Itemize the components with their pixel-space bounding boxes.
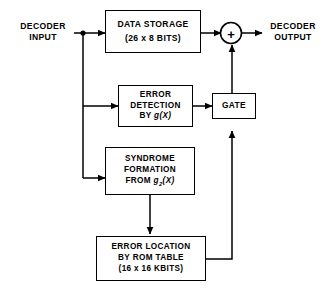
error-detection-line2: DETECTION [130, 101, 180, 112]
input-junction-dot [80, 30, 85, 35]
decoder-input-label: DECODER INPUT [12, 21, 74, 43]
decoder-block-diagram: DECODER INPUT DECODER OUTPUT + DATA STOR… [0, 0, 325, 295]
syndrome-line2: FORMATION [124, 165, 176, 176]
error-detection-line3: BY g(X) [140, 111, 172, 122]
error-detection-block[interactable]: ERROR DETECTION BY g(X) [118, 85, 193, 127]
syndrome-from-text: FROM [125, 176, 153, 185]
generator-poly-arg: (X) [159, 111, 171, 120]
data-storage-block[interactable]: DATA STORAGE (26 x 8 BITS) [105, 10, 201, 53]
error-location-rom-block[interactable]: ERROR LOCATION BY ROM TABLE (16 x 16 KBI… [96, 236, 206, 281]
syndrome-line1: SYNDROME [125, 154, 175, 165]
gate-block[interactable]: GATE [212, 93, 256, 119]
gate-label: GATE [222, 100, 246, 111]
syndrome-line3: FROM g2(X) [125, 176, 174, 188]
decoder-output-label-line2: OUTPUT [264, 32, 322, 43]
adder-plus-icon: + [221, 24, 241, 44]
rom-line3: (16 x 16 KBITS) [119, 264, 184, 275]
data-storage-line2: (26 x 8 BITS) [125, 33, 181, 44]
rom-line2: BY ROM TABLE [118, 253, 184, 264]
error-detection-line1: ERROR [140, 90, 171, 101]
wire-rom-to-gate [206, 131, 232, 259]
error-detection-by-text: BY [140, 111, 155, 120]
decoder-input-label-line1: DECODER [12, 21, 74, 32]
decoder-output-label: DECODER OUTPUT [264, 21, 322, 43]
syndrome-formation-block[interactable]: SYNDROME FORMATION FROM g2(X) [105, 147, 195, 195]
data-storage-line1: DATA STORAGE [117, 19, 188, 30]
rom-line1: ERROR LOCATION [112, 242, 191, 253]
syndrome-poly-arg: (X) [163, 176, 175, 185]
decoder-input-label-line2: INPUT [12, 32, 74, 43]
decoder-output-label-line1: DECODER [264, 21, 322, 32]
